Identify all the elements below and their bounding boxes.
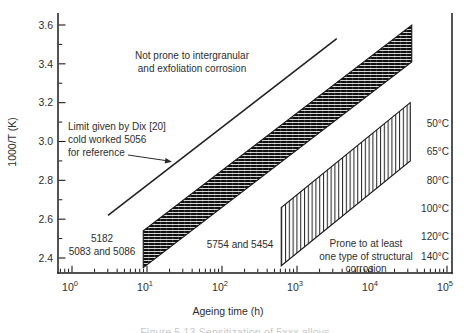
annotation-dix-line2: cold worked 5056 — [68, 134, 147, 145]
annotation-arrow-line — [128, 155, 166, 161]
y-tick-label: 2.4 — [38, 252, 53, 264]
x-tick-label: 101 — [137, 279, 153, 293]
annotation-prone-line3: corrosion — [345, 263, 386, 274]
figure-container: 3.63.43.23.02.82.62.4100101102103104105 … — [0, 0, 470, 333]
annotation-dix-line3: for reference — [68, 147, 125, 158]
temperature-label: 100°C — [421, 203, 449, 214]
series-group — [108, 25, 412, 268]
temperature-label: 140°C — [421, 251, 449, 262]
temperature-label: 80°C — [427, 175, 449, 186]
y-tick-label: 2.8 — [38, 174, 53, 186]
y-tick-label: 3.4 — [38, 58, 53, 70]
annotation-arrowhead-icon — [165, 158, 172, 164]
x-tick-label: 105 — [437, 279, 453, 293]
annotation-alloys-left-line1: 5182 — [91, 233, 114, 244]
temperature-labels-group: 50°C65°C80°C100°C120°C140°C — [421, 118, 449, 262]
annotation-not-prone-line2: and exfoliation corrosion — [138, 63, 246, 74]
y-tick-label: 2.6 — [38, 213, 53, 225]
y-tick-label: 3.0 — [38, 135, 53, 147]
annotation-dix-line1: Limit given by Dix [20] — [68, 121, 166, 132]
temperature-label: 120°C — [421, 231, 449, 242]
x-tick-label: 104 — [362, 279, 378, 293]
x-tick-label: 100 — [62, 279, 78, 293]
annotation-prone-line1: Prone to at least — [330, 238, 403, 249]
annotation-prone-line2: one type of structural — [319, 251, 412, 262]
clipped-caption: Figure 5.13 Sensitization of 5xxx alloys — [0, 326, 470, 333]
annotation-not-prone-line1: Not prone to intergranular — [135, 50, 250, 61]
temperature-label: 65°C — [427, 146, 449, 157]
temperature-label: 50°C — [427, 118, 449, 129]
y-tick-label: 3.6 — [38, 19, 53, 31]
corrosion-chart: 3.63.43.23.02.82.62.4100101102103104105 … — [0, 0, 470, 333]
annotation-alloys-left-line2: 5083 and 5086 — [69, 246, 136, 257]
annotation-alloys-mid: 5754 and 5454 — [207, 239, 274, 250]
y-axis-title: 1000/T (K) — [6, 117, 18, 166]
x-tick-label: 102 — [212, 279, 228, 293]
x-tick-label: 103 — [287, 279, 303, 293]
x-axis-title: Ageing time (h) — [192, 305, 263, 317]
y-tick-label: 3.2 — [38, 96, 53, 108]
